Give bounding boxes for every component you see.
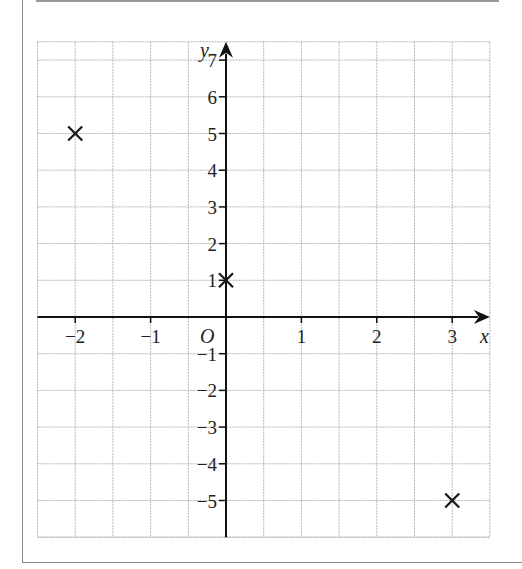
y-axis-label: y <box>198 39 209 62</box>
y-tick-label: −2 <box>197 380 217 401</box>
y-tick-label: 4 <box>208 160 218 181</box>
y-tick-label: 6 <box>208 87 218 108</box>
x-tick-label: −1 <box>140 326 160 347</box>
y-tick-label: 2 <box>208 234 218 255</box>
x-tick-label: −2 <box>65 326 85 347</box>
y-tick-label: 7 <box>208 50 218 71</box>
y-tick-label: −3 <box>197 417 217 438</box>
y-tick-label: 5 <box>208 124 218 145</box>
grid-lines <box>38 42 490 537</box>
tick-labels: −2−11237654321−1−2−3−4−5xyO <box>65 39 489 512</box>
x-tick-label: 1 <box>297 326 307 347</box>
x-tick-label: 2 <box>372 326 382 347</box>
x-tick-label: 3 <box>447 326 457 347</box>
y-tick-label: 1 <box>208 270 218 291</box>
x-axis-label: x <box>479 325 489 347</box>
y-tick-label: −5 <box>197 491 217 512</box>
y-tick-label: 3 <box>208 197 218 218</box>
origin-label: O <box>200 325 214 347</box>
y-tick-label: −4 <box>197 454 218 475</box>
